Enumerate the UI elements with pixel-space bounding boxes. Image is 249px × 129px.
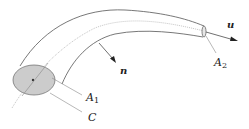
stream-tube-diagram: u n A2 A1 C: [0, 0, 249, 129]
leader-A1: [52, 78, 82, 95]
label-A2: A2: [213, 56, 227, 70]
normal-arrow-n: [99, 43, 113, 59]
label-n: n: [120, 65, 127, 76]
leader-A2: [206, 36, 216, 53]
label-C: C: [88, 111, 97, 124]
outlet-cross-section-A2: [202, 26, 206, 37]
tube-inner-wall: [62, 31, 203, 84]
label-u: u: [227, 19, 234, 30]
velocity-arrow-u: [206, 32, 234, 40]
velocity-arrowhead-icon: [230, 37, 238, 42]
leader-C: [50, 93, 82, 112]
label-A1: A1: [85, 91, 99, 105]
tube-centerline: [12, 21, 204, 108]
